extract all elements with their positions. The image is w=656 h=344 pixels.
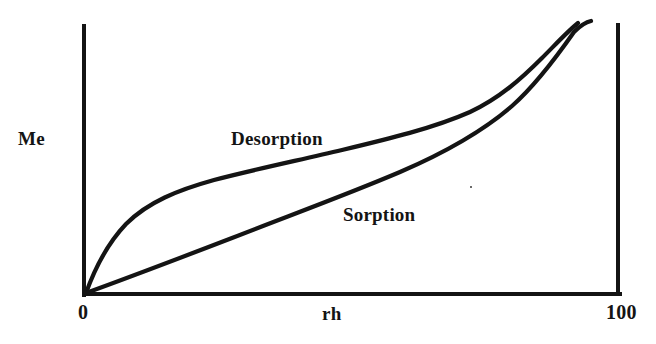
x-tick-label-0: 0 [78, 301, 88, 324]
sorption-curve [86, 21, 591, 293]
plot-canvas [0, 0, 656, 344]
scan-speck [470, 186, 472, 188]
sorption-desorption-isotherm-figure: Me rh 0 100 Desorption Sorption [0, 0, 656, 344]
series-label-sorption: Sorption [343, 204, 415, 226]
y-axis-title: Me [18, 128, 45, 150]
series-label-desorption: Desorption [231, 128, 323, 150]
x-axis-title: rh [322, 303, 341, 325]
desorption-curve [86, 23, 578, 293]
x-tick-label-100: 100 [606, 301, 637, 324]
